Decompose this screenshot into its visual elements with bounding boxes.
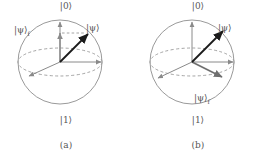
- state-vector-label-a: |ψ⟩: [86, 24, 100, 33]
- panel-a: |0⟩ |1⟩ |ψ⟩ |ψ⟩f (a): [0, 0, 132, 164]
- axis-y-arrow: [29, 62, 60, 76]
- final-state-label-b: |ψ⟩f: [194, 94, 210, 106]
- axis-y-arrow: [158, 62, 192, 78]
- pole-label-top-b: |0⟩: [192, 2, 204, 11]
- bloch-sphere-figure: |0⟩ |1⟩ |ψ⟩ |ψ⟩f (a): [0, 0, 264, 164]
- bloch-sphere-a: [0, 0, 132, 134]
- state-vector-label-b: |ψ⟩: [218, 24, 232, 33]
- final-state-vector-b: [192, 62, 222, 77]
- state-vector-a: [60, 34, 88, 62]
- panel-b: |0⟩ |1⟩ |ψ⟩ |ψ⟩f (b): [132, 0, 264, 164]
- pole-label-top-a: |0⟩: [60, 2, 72, 11]
- caption-b: (b): [132, 140, 264, 150]
- bloch-sphere-b: [132, 0, 264, 134]
- final-state-label-b-ket: |ψ⟩: [194, 93, 208, 103]
- final-state-label-a-sub: f: [28, 30, 30, 37]
- state-vector-b: [192, 31, 223, 62]
- final-state-label-a: |ψ⟩f: [14, 26, 30, 38]
- final-state-label-a-ket: |ψ⟩: [14, 25, 28, 35]
- pole-label-bottom-b: |1⟩: [192, 116, 204, 125]
- pole-label-bottom-a: |1⟩: [60, 116, 72, 125]
- final-state-label-b-sub: f: [208, 98, 210, 105]
- caption-a: (a): [0, 140, 132, 150]
